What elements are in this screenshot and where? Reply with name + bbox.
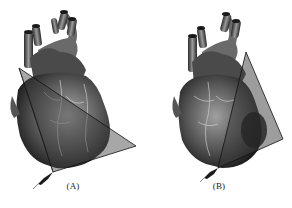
figure: (A) [0, 0, 292, 208]
transducer-probe-b [200, 168, 218, 182]
panel-label-b: (B) [146, 181, 292, 191]
heart-illustration-b [146, 0, 292, 208]
panel-label-a: (A) [0, 181, 146, 191]
great-vessels [188, 12, 246, 84]
great-vessels [24, 10, 86, 82]
panel-b: (B) [146, 0, 292, 208]
panel-a: (A) [0, 0, 146, 208]
heart-illustration-a [0, 0, 146, 208]
